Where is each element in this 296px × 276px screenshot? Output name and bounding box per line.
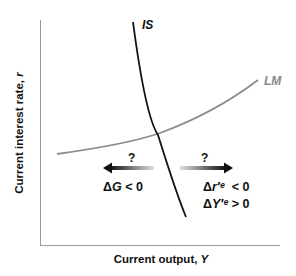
is-curve-label: IS bbox=[142, 19, 153, 31]
lm-curve-label: LM bbox=[264, 75, 281, 87]
y-axis-label-text: Current interest rate, bbox=[13, 77, 25, 194]
x-axis-label-text: Current output, bbox=[114, 253, 201, 265]
left-question-mark: ? bbox=[128, 152, 135, 164]
condition-inequality: < 0 bbox=[122, 180, 143, 194]
condition-variable: G bbox=[112, 180, 122, 194]
x-axis-variable: Y bbox=[201, 253, 209, 265]
x-axis-label: Current output, Y bbox=[114, 254, 209, 266]
condition-variable: Y′ᵉ bbox=[212, 197, 228, 211]
expected-output-condition: ΔY′ᵉ > 0 bbox=[203, 198, 250, 211]
delta-symbol: Δ bbox=[203, 197, 212, 211]
diagram-canvas bbox=[0, 0, 296, 276]
expected-interest-rate-condition: Δr′ᵉ < 0 bbox=[203, 181, 250, 194]
lm-curve bbox=[57, 80, 258, 154]
condition-variable: r′ᵉ bbox=[212, 180, 225, 194]
government-spending-condition: ΔG < 0 bbox=[103, 181, 143, 194]
right-question-mark: ? bbox=[201, 152, 208, 164]
delta-symbol: Δ bbox=[103, 180, 112, 194]
condition-inequality: < 0 bbox=[225, 180, 250, 194]
is-lm-diagram: Current interest rate, r Current output,… bbox=[0, 0, 296, 276]
y-axis-label: Current interest rate, r bbox=[14, 72, 26, 193]
y-axis-variable: r bbox=[13, 72, 25, 76]
condition-inequality: > 0 bbox=[228, 197, 249, 211]
delta-symbol: Δ bbox=[203, 180, 212, 194]
